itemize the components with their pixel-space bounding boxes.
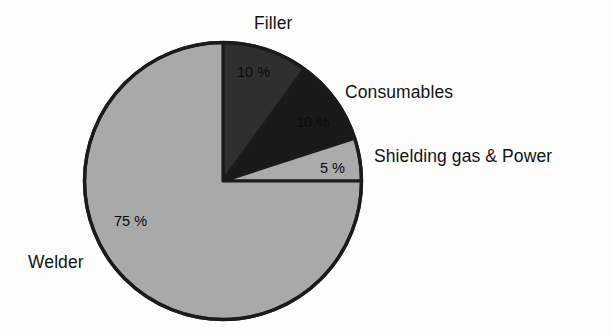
slice-label-consumables: Consumables [345,82,453,103]
slice-value-welder: 75 % [114,213,147,229]
slice-label-filler: Filler [254,13,293,34]
slice-value-filler: 10 % [237,64,270,80]
pie-chart-figure: Filler Consumables Shielding gas & Power… [0,0,613,335]
slice-value-consumables: 10 % [296,114,329,130]
slice-label-shielding-gas-power: Shielding gas & Power [374,146,552,167]
slice-value-shielding-gas-power: 5 % [320,160,345,176]
pie-chart-canvas [0,0,613,335]
slice-label-welder: Welder [28,252,84,273]
